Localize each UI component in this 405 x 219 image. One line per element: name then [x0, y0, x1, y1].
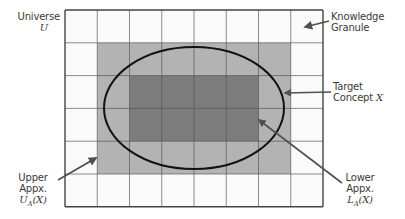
universe-symbol: U [40, 22, 48, 33]
knowledge-granule-label: Knowledge Granule [331, 11, 384, 33]
upper-approximation-symbol: UA(X) [14, 194, 52, 210]
target-concept-symbol: X [376, 92, 383, 103]
target-concept-label: Target Concept X [333, 81, 383, 103]
target-concept-arrow [285, 92, 331, 93]
lower-approximation-label: Lower Appx. LA(X) [341, 172, 379, 210]
upper-approximation-label: Upper Appx. UA(X) [14, 172, 52, 210]
lower-approximation-symbol: LA(X) [341, 194, 379, 210]
universe-label: Universe U [10, 11, 60, 33]
